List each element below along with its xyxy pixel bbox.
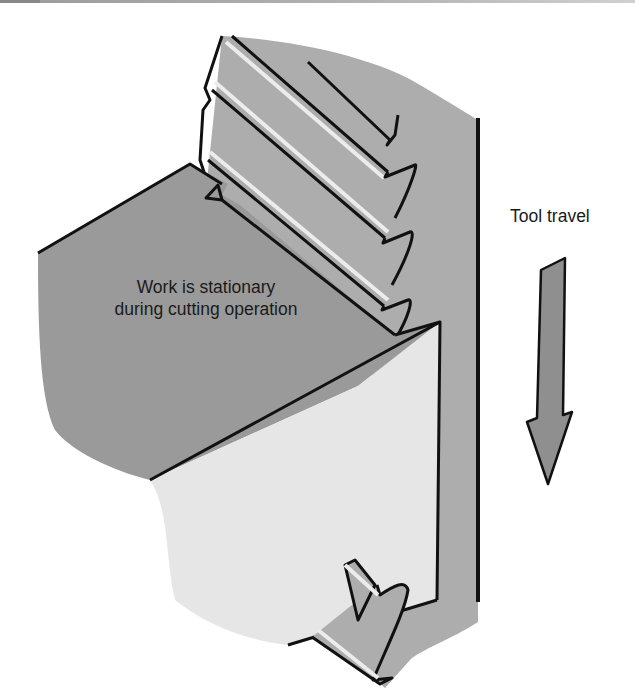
work-stationary-label: Work is stationary during cutting operat… <box>96 276 316 320</box>
work-label-line1: Work is stationary <box>96 276 316 298</box>
broaching-diagram <box>0 0 635 689</box>
tool-travel-arrow[interactable] <box>527 258 572 484</box>
work-label-line2: during cutting operation <box>96 298 316 320</box>
tool-travel-label: Tool travel <box>510 206 590 227</box>
